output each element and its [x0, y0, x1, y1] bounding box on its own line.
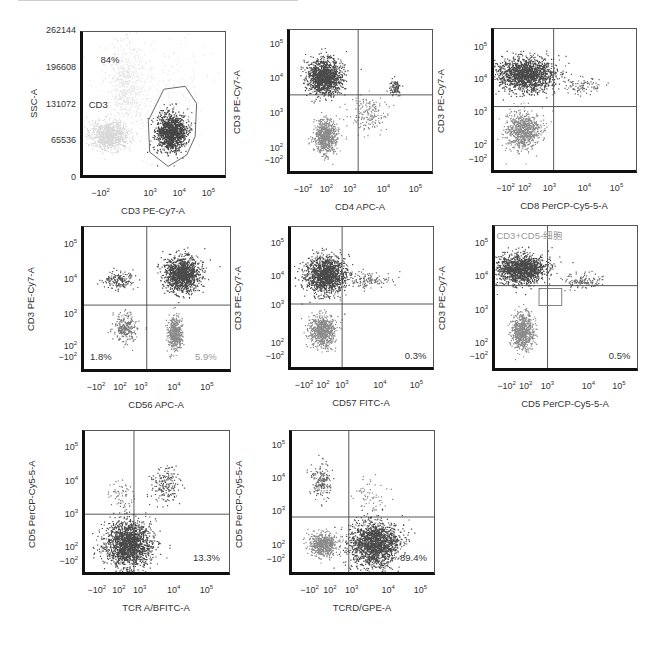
y-tick-label: 105 [241, 439, 285, 450]
percent-annotation: 0.3% [405, 350, 427, 361]
x-tick-label: −102 [294, 183, 313, 194]
y-tick-label: −102 [443, 153, 487, 164]
x-tick-label: 102 [323, 584, 336, 595]
x-tick-label: 102 [519, 380, 532, 391]
x-tick-label: 102 [320, 183, 333, 194]
y-tick-label: 104 [240, 270, 284, 281]
x-tick-label: 105 [202, 187, 215, 198]
x-tick-label: 104 [173, 187, 186, 198]
y-tick-label: 105 [443, 41, 487, 52]
x-tick-label: 103 [541, 380, 554, 391]
x-tick-label: 102 [112, 584, 125, 595]
x-tick-label: 104 [167, 584, 180, 595]
y-axis-label: CD3 PE-Cy7-A [25, 268, 36, 332]
y-tick-label: 102 [444, 337, 488, 348]
x-tick-label: −102 [300, 584, 319, 595]
x-tick-label: 104 [382, 584, 395, 595]
percent-annotation: 13.3% [193, 552, 220, 563]
x-tick-label: 102 [316, 379, 329, 390]
y-tick-label: 103 [33, 308, 77, 319]
y-tick-label: 105 [34, 441, 78, 452]
y-tick-label: 103 [444, 304, 488, 315]
y-tick-label: 65536 [32, 135, 76, 145]
x-axis-label: CD5 PerCP-Cy5-5-A [521, 398, 609, 409]
y-tick-label: 103 [240, 299, 284, 310]
y-tick-label: 103 [239, 107, 283, 118]
y-axis-label: CD3 PE-Cy7-A [232, 267, 243, 331]
x-tick-label: −102 [497, 380, 516, 391]
x-tick-label: 105 [612, 380, 625, 391]
x-tick-label: 103 [345, 584, 358, 595]
y-tick-label: 103 [34, 508, 78, 519]
x-tick-label: 105 [414, 584, 427, 595]
x-tick-label: 104 [373, 379, 386, 390]
x-tick-label: 104 [377, 183, 390, 194]
percent-annotation: 5.9% [195, 351, 217, 362]
plot-area [288, 226, 434, 370]
x-axis-label: CD57 FITC-A [332, 397, 390, 408]
x-axis-label: CD8 PerCP-Cy5-5-A [520, 200, 608, 211]
y-tick-label: 105 [444, 237, 488, 248]
x-tick-label: 103 [335, 379, 348, 390]
plot-area [491, 28, 637, 173]
y-tick-label: 102 [241, 539, 285, 550]
x-tick-label: −102 [87, 584, 106, 595]
x-tick-label: 103 [343, 183, 356, 194]
y-tick-label: 104 [443, 73, 487, 84]
x-tick-label: −102 [496, 182, 515, 193]
x-tick-label: −102 [87, 381, 106, 392]
y-tick-label: −102 [241, 553, 285, 564]
x-axis-label: CD56 APC-A [128, 399, 183, 410]
y-axis-label: CD5 PerCP-Cy5-5-A [233, 461, 244, 549]
x-tick-label: 105 [409, 183, 422, 194]
x-tick-label: 102 [518, 182, 531, 193]
x-tick-label: 104 [582, 380, 595, 391]
x-tick-label: 104 [578, 182, 591, 193]
y-tick-label: −102 [444, 350, 488, 361]
y-tick-label: 104 [444, 270, 488, 281]
y-tick-label: −102 [33, 351, 77, 362]
scatter-points [495, 226, 637, 368]
y-tick-label: 102 [240, 337, 284, 348]
scatter-points [494, 29, 636, 170]
y-tick-label: 102 [33, 340, 77, 351]
x-tick-label: −102 [295, 379, 314, 390]
x-tick-label: 102 [113, 381, 126, 392]
x-tick-label: 103 [143, 187, 156, 198]
y-tick-label: 102 [443, 139, 487, 150]
y-tick-label: 102 [239, 142, 283, 153]
percent-annotation: 1.8% [90, 351, 112, 362]
x-tick-label: 103 [133, 584, 146, 595]
top-divider [18, 0, 298, 1]
y-tick-label: 105 [33, 238, 77, 249]
percent-annotation: CD3 [89, 99, 108, 110]
x-tick-label: 105 [200, 584, 213, 595]
x-tick-label: 105 [610, 182, 623, 193]
y-tick-label: 103 [443, 106, 487, 117]
y-tick-label: 105 [240, 237, 284, 248]
scatter-points [291, 227, 433, 367]
percent-annotation: 84% [100, 54, 119, 65]
x-axis-label: TCRD/GPE-A [333, 602, 392, 613]
y-axis-label: SSC-A [28, 89, 39, 118]
gate-rectangle [539, 288, 562, 305]
x-tick-label: 105 [410, 379, 423, 390]
y-axis-label: CD3 PE-Cy7-A [435, 69, 446, 133]
y-tick-label: 105 [239, 38, 283, 49]
percent-annotation: 0.5% [609, 350, 631, 361]
x-tick-label: 104 [167, 381, 180, 392]
y-tick-label: −102 [240, 350, 284, 361]
scatter-points [84, 227, 230, 369]
plot-area [492, 225, 638, 371]
y-axis-label: CD5 PerCP-Cy5-5-A [26, 461, 37, 549]
y-tick-label: −102 [34, 555, 78, 566]
x-tick-label: 103 [543, 182, 556, 193]
y-tick-label: −102 [239, 154, 283, 165]
x-tick-label: −102 [91, 187, 110, 198]
percent-annotation: 89.4% [400, 552, 427, 563]
y-tick-label: 104 [241, 472, 285, 483]
y-tick-label: 104 [33, 273, 77, 284]
y-axis-label: CD3 PE-Cy7-A [436, 267, 447, 331]
y-tick-label: 104 [239, 72, 283, 83]
x-axis-label: TCR A/BFITC-A [122, 602, 190, 613]
